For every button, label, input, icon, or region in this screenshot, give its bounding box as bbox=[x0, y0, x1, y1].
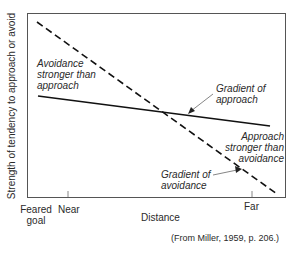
annotation-line: Gradient of bbox=[216, 83, 265, 94]
tick-label-feared-goal: Feared goal bbox=[18, 204, 54, 226]
source-citation: (From Miller, 1959, p. 206.) bbox=[171, 233, 279, 244]
avoidance-gradient-line bbox=[37, 22, 277, 194]
annotation-line: Gradient of bbox=[161, 169, 210, 180]
tick-label-far: Far bbox=[244, 201, 259, 212]
approach-pointer bbox=[191, 94, 213, 111]
annotation-line: Approach bbox=[222, 131, 284, 142]
plot-frame bbox=[28, 14, 286, 198]
annotation-line: avoidance bbox=[161, 180, 210, 191]
annotation-line: stronger than bbox=[37, 69, 96, 80]
approach-arrowhead-icon bbox=[188, 107, 195, 114]
y-axis-label: Strength of tendency to approach or avoi… bbox=[6, 13, 17, 199]
x-axis-label: Distance bbox=[141, 212, 180, 223]
annotation-line: avoidance bbox=[222, 153, 284, 164]
annotation-avoidance-stronger: Avoidance stronger than approach bbox=[37, 58, 96, 91]
annotation-line: approach bbox=[216, 94, 265, 105]
annotation-approach-stronger: Approach stronger than avoidance bbox=[222, 131, 284, 164]
annotation-gradient-approach: Gradient of approach bbox=[216, 83, 265, 105]
tick-label-near: Near bbox=[58, 204, 80, 215]
tick-label-line: goal bbox=[18, 215, 54, 226]
annotation-gradient-avoidance: Gradient of avoidance bbox=[161, 169, 210, 191]
annotation-line: approach bbox=[37, 80, 96, 91]
tick-label-line: Feared bbox=[18, 204, 54, 215]
annotation-line: Avoidance bbox=[37, 58, 96, 69]
annotation-line: stronger than bbox=[222, 142, 284, 153]
avoidance-pointer bbox=[213, 170, 237, 175]
